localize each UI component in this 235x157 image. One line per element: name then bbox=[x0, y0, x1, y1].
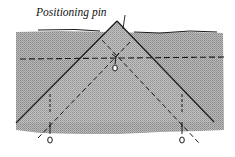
diagram: Positioning pin bbox=[0, 0, 235, 157]
diagram-canvas bbox=[0, 0, 235, 157]
positioning-pin-pointer bbox=[123, 15, 125, 29]
positioning-pin-label: Positioning pin bbox=[36, 6, 107, 18]
